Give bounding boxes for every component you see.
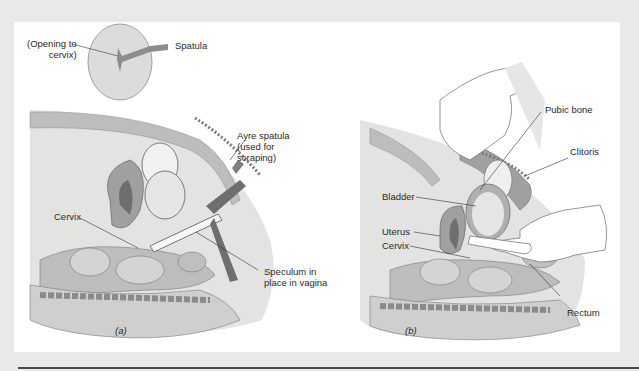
- label-speculum: Speculum in place in vagina: [264, 266, 327, 288]
- caption-a: (a): [115, 325, 127, 336]
- label-cervix-b: Cervix: [382, 240, 409, 251]
- label-uterus: Uterus: [382, 226, 410, 237]
- label-ayre-line1: Ayre spatula: [237, 130, 290, 141]
- caption-b: (b): [405, 325, 417, 336]
- cervix-inset-illustration: [72, 24, 168, 100]
- label-clitoris: Clitoris: [570, 146, 599, 157]
- anatomy-illustration: [0, 0, 639, 371]
- label-ayre-line2: (used for: [237, 141, 290, 152]
- label-spatula: Spatula: [175, 40, 207, 51]
- label-ayre-spatula: Ayre spatula (used for scraping): [237, 130, 290, 163]
- label-speculum-line1: Speculum in: [264, 266, 327, 277]
- label-rectum: Rectum: [567, 307, 600, 318]
- bottom-divider: [18, 367, 639, 369]
- label-pubic-bone: Pubic bone: [545, 104, 593, 115]
- label-opening-line1: (Opening to: [27, 38, 77, 49]
- label-speculum-line2: place in vagina: [264, 277, 327, 288]
- label-opening-line2: cervix): [27, 49, 77, 60]
- label-bladder: Bladder: [382, 191, 415, 202]
- label-cervix-a: Cervix: [54, 211, 81, 222]
- label-opening-to-cervix: (Opening to cervix): [27, 38, 77, 60]
- label-ayre-line3: scraping): [237, 152, 290, 163]
